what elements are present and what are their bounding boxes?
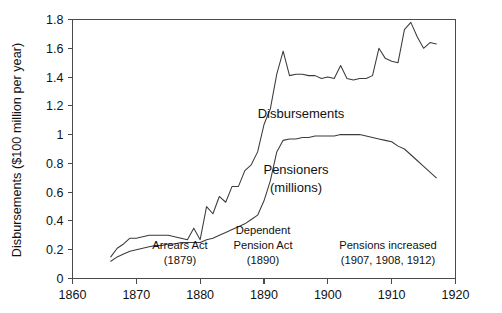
- y-axis-tick-label: 1.6: [46, 42, 63, 56]
- y-axis-tick-label: 1.4: [46, 71, 63, 85]
- annotation-dependent-pension-act: Dependent Pension Act (1890): [233, 224, 293, 266]
- annotation-dependent-pension-act-line3: (1890): [247, 254, 280, 266]
- y-axis-tick-label: 0.4: [46, 214, 63, 228]
- y-axis-tick-label: 0.2: [46, 243, 63, 257]
- annotation-arrears-act-line2: (1879): [164, 254, 197, 266]
- series-label-pensioners-unit: (millions): [270, 180, 322, 195]
- x-axis-tick-label: 1870: [122, 288, 150, 302]
- annotation-pensions-increased-line1: Pensions increased: [339, 239, 437, 251]
- y-axis-tick-label: 1.8: [46, 13, 63, 27]
- series-label-disbursements: Disbursements: [258, 106, 345, 121]
- chart-figure: Disbursements ($100 million per year) 00…: [0, 0, 502, 313]
- y-axis-title: Disbursements ($100 million per year): [10, 43, 24, 257]
- annotation-dependent-pension-act-line2: Pension Act: [233, 239, 293, 251]
- series-label-pensioners: Pensioners: [263, 162, 329, 177]
- y-axis-tick-label: 0: [57, 272, 64, 286]
- x-axis-tick-label: 1860: [59, 288, 87, 302]
- y-axis-tick-label: 0.8: [46, 157, 63, 171]
- y-axis-tick-label: 1: [57, 128, 64, 142]
- annotation-dependent-pension-act-line1: Dependent: [236, 224, 292, 236]
- pension-disbursements-line-chart: Disbursements ($100 million per year) 00…: [0, 0, 502, 313]
- x-axis-tick-label: 1900: [314, 288, 342, 302]
- annotation-arrears-act: Arrears Act (1879): [152, 239, 208, 266]
- x-axis-ticks: 1860187018801890190019101920: [59, 279, 470, 302]
- x-axis-tick-label: 1910: [378, 288, 406, 302]
- annotation-pensions-increased: Pensions increased (1907, 1908, 1912): [339, 239, 437, 266]
- x-axis-tick-label: 1880: [186, 288, 214, 302]
- y-axis-tick-label: 0.6: [46, 186, 63, 200]
- annotation-pensions-increased-line2: (1907, 1908, 1912): [341, 254, 436, 266]
- y-axis-ticks: 00.20.40.60.811.21.41.61.8: [46, 13, 72, 286]
- annotation-arrears-act-line1: Arrears Act: [152, 239, 208, 251]
- y-axis-tick-label: 1.2: [46, 99, 63, 113]
- y-axis-title-label: Disbursements ($100 million per year): [10, 43, 24, 257]
- x-axis-tick-label: 1920: [442, 288, 470, 302]
- x-axis-tick-label: 1890: [250, 288, 278, 302]
- disbursements-line: [111, 22, 437, 257]
